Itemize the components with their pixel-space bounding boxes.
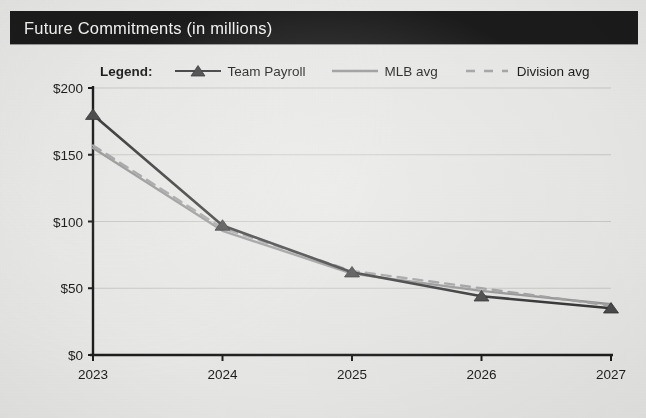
x-axis-tick-label: 2026	[466, 367, 496, 382]
x-axis-tick-label: 2023	[78, 367, 108, 382]
x-axis-tick-label: 2027	[596, 367, 626, 382]
chart-page: Future Commitments (in millions) Legend:…	[0, 0, 646, 418]
x-axis-tick-label: 2024	[207, 367, 237, 382]
y-axis-tick-label: $200	[53, 81, 83, 96]
line-chart: $0$50$100$150$20020232024202520262027	[0, 0, 646, 418]
plot-svg	[0, 0, 646, 418]
series-line-team-payroll	[93, 115, 611, 309]
y-axis-tick-label: $150	[53, 147, 83, 162]
y-axis-tick-label: $100	[53, 214, 83, 229]
y-axis-tick-label: $0	[68, 348, 83, 363]
y-axis-tick-label: $50	[60, 281, 83, 296]
x-axis-tick-label: 2025	[337, 367, 367, 382]
data-point-marker	[86, 109, 101, 120]
series-line-mlb-avg	[93, 148, 611, 304]
series-line-division-avg	[93, 145, 611, 305]
